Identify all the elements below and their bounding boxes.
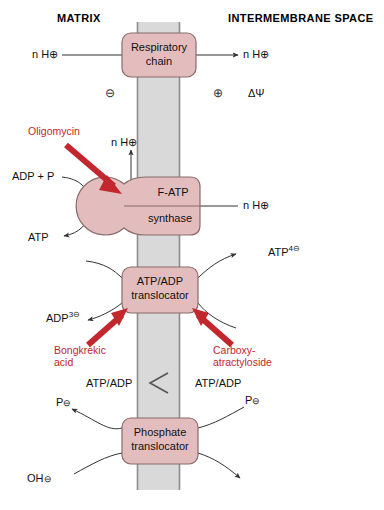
atp-adp-ratio-right-label: ATP/ADP	[195, 377, 241, 389]
intermembrane-space-header: INTERMEMBRANE SPACE	[228, 12, 374, 24]
proton-up-synthase-label: n H⊕	[111, 136, 137, 149]
adp3-label: ADP3⊖	[46, 310, 80, 324]
phosphate-right-label: P⊖	[245, 394, 260, 406]
atp-product-label: ATP	[28, 231, 49, 243]
respiratory-chain-label-line1: Respiratory	[122, 41, 196, 53]
carboxy-atractyloside-inhibitor-arrow	[192, 308, 232, 345]
proton-out-label: n H⊕	[243, 48, 269, 61]
f-atp-synthase-label-line2: synthase	[140, 212, 200, 224]
atp-adp-ratio-left-label: ATP/ADP	[86, 377, 132, 389]
phosphate-translocator-label-line1: Phosphate	[122, 426, 198, 438]
positive-charge-symbol: ⊕	[213, 86, 223, 100]
atp-adp-translocator-label-line1: ATP/ADP	[122, 275, 198, 287]
atp4-label: ATP4⊖	[268, 244, 300, 258]
oligomycin-label: Oligomycin	[28, 126, 80, 138]
proton-in-label: n H⊕	[32, 48, 58, 61]
phosphate-translocator-label-line2: translocator	[122, 440, 198, 452]
matrix-header: MATRIX	[57, 12, 101, 24]
phosphate-left-label: P⊖	[56, 396, 71, 408]
respiratory-chain-label-line2: chain	[122, 55, 196, 67]
adp-phosphate-label: ADP + P	[12, 170, 54, 182]
bongkrekic-acid-label: Bongkrekicacid	[54, 345, 106, 368]
delta-psi-label: ΔΨ	[248, 87, 265, 99]
hydroxide-label: OH⊖	[27, 472, 52, 484]
carboxy-atractyloside-label: Carboxy-atractyloside	[213, 345, 272, 368]
bongkrekic-acid-inhibitor-arrow	[88, 308, 128, 345]
f-atp-synthase-label-line1: F-ATP	[146, 186, 200, 198]
negative-charge-symbol: ⊖	[105, 86, 115, 100]
atp-adp-translocator-label-line2: translocator	[122, 289, 198, 301]
proton-right-synthase-label: n H⊕	[243, 199, 269, 212]
